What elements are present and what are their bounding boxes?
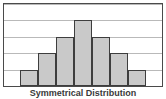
figure-caption: Symmetrical Distribution xyxy=(0,88,166,99)
bars-group xyxy=(4,4,162,86)
histogram-figure: Symmetrical Distribution xyxy=(0,0,166,99)
bar-5 xyxy=(92,37,110,86)
bar-4 xyxy=(74,20,92,86)
bar-7 xyxy=(128,70,146,86)
plot-area xyxy=(3,3,163,87)
bar-2 xyxy=(38,53,56,86)
bar-6 xyxy=(110,53,128,86)
bar-1 xyxy=(20,70,38,86)
bar-3 xyxy=(56,37,74,86)
